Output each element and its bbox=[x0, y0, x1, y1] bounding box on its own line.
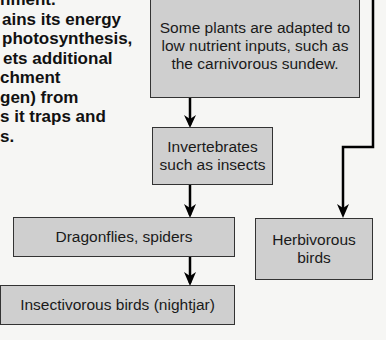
node-herbivorous-birds-label: Herbivorous birds bbox=[272, 231, 356, 267]
arrow-dragonflies-to-insectivorous bbox=[184, 255, 196, 286]
node-sundew: Some plants are adapted to low nutrient … bbox=[150, 0, 360, 98]
node-insectivorous-birds: Insectivorous birds (nightjar) bbox=[0, 285, 235, 325]
node-dragonflies-label: Dragonflies, spiders bbox=[56, 228, 193, 246]
arrow-invertebrates-to-dragonflies bbox=[184, 183, 196, 218]
arrow-sundew-to-invertebrates bbox=[184, 97, 196, 128]
node-sundew-label: Some plants are adapted to low nutrient … bbox=[159, 19, 351, 73]
node-herbivorous-birds: Herbivorous birds bbox=[255, 218, 373, 280]
node-dragonflies: Dragonflies, spiders bbox=[13, 217, 235, 257]
node-insectivorous-birds-label: Insectivorous birds (nightjar) bbox=[20, 296, 215, 314]
node-invertebrates: Invertebrates such as insects bbox=[152, 127, 273, 185]
node-invertebrates-label: Invertebrates such as insects bbox=[159, 138, 266, 174]
